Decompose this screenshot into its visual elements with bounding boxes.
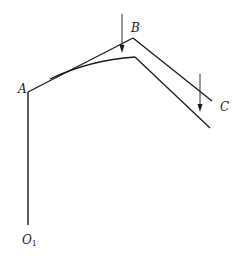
member-a-b (28, 38, 133, 92)
deformed-curve (50, 57, 135, 79)
load-arrow-b (120, 14, 125, 53)
label-a: A (17, 82, 27, 96)
label-c: C (220, 100, 229, 114)
frame-diagram: A B C O1 (0, 0, 243, 261)
label-b: B (130, 21, 140, 35)
label-o1: O1 (22, 233, 37, 248)
label-o1-main: O (22, 233, 32, 247)
deformed-member (135, 57, 210, 128)
arrow-head-icon (198, 104, 203, 112)
label-o1-subscript: 1 (32, 239, 37, 248)
arrow-head-icon (120, 45, 125, 53)
